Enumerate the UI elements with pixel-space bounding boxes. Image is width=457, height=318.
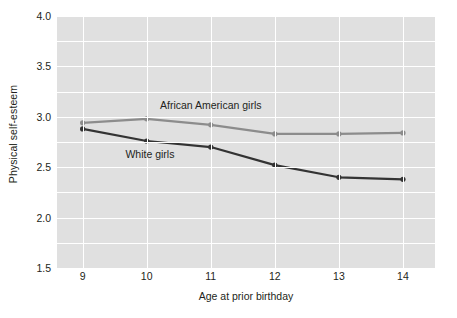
gridline-horizontal [57, 16, 435, 17]
y-axis-label: Physical self-esteem [2, 0, 24, 268]
series-line [83, 129, 403, 179]
y-tick-label: 1.5 [36, 262, 51, 274]
gridline-vertical [147, 16, 148, 268]
x-axis-tick-labels: 91011121314 [57, 270, 435, 288]
gridline-horizontal [57, 167, 435, 168]
y-tick-label: 2.0 [36, 212, 51, 224]
y-axis-tick-labels: 4.03.53.02.52.01.5 [24, 0, 54, 284]
gridline-horizontal [57, 142, 435, 143]
chart-figure: Physical self-esteem 4.03.53.02.52.01.5 … [0, 0, 457, 318]
gridline-horizontal [57, 66, 435, 67]
y-tick-label: 3.5 [36, 60, 51, 72]
gridline-vertical [275, 16, 276, 268]
gridline-horizontal [57, 192, 435, 193]
y-tick-label: 3.0 [36, 111, 51, 123]
y-tick-label: 4.0 [36, 10, 51, 22]
gridline-horizontal [57, 243, 435, 244]
gridline-vertical [83, 16, 84, 268]
x-tick-label: 13 [333, 270, 345, 282]
gridline-horizontal [57, 117, 435, 118]
gridline-horizontal [57, 92, 435, 93]
x-tick-label: 11 [205, 270, 216, 282]
y-axis-label-text: Physical self-esteem [7, 85, 19, 183]
series-line [83, 119, 403, 134]
plot-area [57, 16, 435, 268]
gridline-horizontal [57, 41, 435, 42]
x-tick-label: 14 [397, 270, 409, 282]
x-tick-label: 9 [80, 270, 86, 282]
gridline-vertical [403, 16, 404, 268]
gridline-horizontal [57, 218, 435, 219]
x-tick-label: 10 [141, 270, 153, 282]
y-tick-label: 2.5 [36, 161, 51, 173]
x-axis-label: Age at prior birthday [57, 290, 435, 302]
gridline-vertical [339, 16, 340, 268]
x-tick-label: 12 [269, 270, 281, 282]
gridline-vertical [211, 16, 212, 268]
